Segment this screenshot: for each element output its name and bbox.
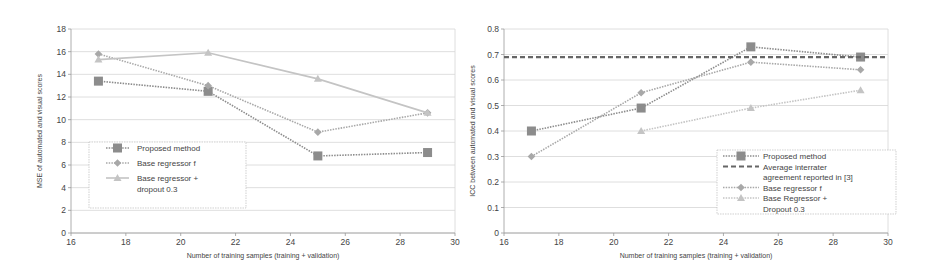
legend-label: agreement reported in [3] [763, 173, 853, 182]
series-line [98, 53, 427, 113]
x-tick-label: 28 [828, 237, 838, 247]
y-tick-label: 0.1 [487, 203, 499, 213]
y-tick-label: 4 [61, 183, 66, 193]
diamond-marker [528, 153, 536, 161]
legend-label: Base regressor f [137, 159, 196, 168]
triangle-marker [857, 86, 865, 93]
legend-label: Proposed method [763, 152, 826, 161]
y-tick-label: 0.8 [487, 24, 499, 34]
legend-label: Proposed method [137, 144, 200, 153]
y-axis-label: ICC between automated and visual scores [469, 65, 476, 197]
y-axis-label: MSE of automated and visual scores [36, 74, 43, 189]
legend: Proposed methodAverage interrateragreeme… [717, 150, 896, 214]
y-tick-label: 0.2 [487, 177, 499, 187]
y-tick-label: 12 [57, 92, 67, 102]
square-marker [313, 151, 322, 160]
square-marker [637, 104, 646, 113]
series-base-regressor-dropout-0-3 [637, 86, 864, 134]
x-tick-label: 30 [450, 237, 460, 247]
x-tick-label: 24 [719, 237, 729, 247]
x-tick-label: 26 [774, 237, 784, 247]
square-marker [737, 152, 746, 161]
legend-label: Base regressor f [763, 184, 822, 193]
x-tick-label: 30 [883, 237, 893, 247]
series-line [531, 47, 860, 131]
x-tick-label: 26 [341, 237, 351, 247]
x-axis-label: Number of training samples (training + v… [620, 252, 773, 260]
x-tick-label: 22 [231, 237, 241, 247]
y-tick-label: 0.7 [487, 50, 499, 60]
y-tick-label: 10 [57, 115, 67, 125]
series-base-regressor-f [528, 58, 865, 160]
series-base-regressor-dropout-0-3 [94, 49, 431, 116]
y-tick-label: 0.6 [487, 75, 499, 85]
icc-chart: 00.10.20.30.40.50.60.70.8161820222426283… [469, 24, 896, 260]
x-tick-label: 20 [609, 237, 619, 247]
square-marker [746, 42, 755, 51]
y-tick-label: 0.3 [487, 152, 499, 162]
diamond-marker [747, 58, 755, 66]
y-tick-label: 0.4 [487, 126, 499, 136]
y-tick-label: 0.5 [487, 101, 499, 111]
legend-label: dropout 0.3 [137, 185, 178, 194]
x-tick-label: 16 [66, 237, 76, 247]
square-marker [423, 148, 432, 157]
y-tick-label: 8 [61, 137, 66, 147]
y-tick-label: 6 [61, 160, 66, 170]
square-marker [113, 144, 122, 153]
x-tick-label: 28 [395, 237, 405, 247]
square-marker [527, 127, 536, 136]
diamond-marker [857, 66, 865, 74]
legend-label: Base Regressor + [763, 194, 828, 203]
x-tick-label: 18 [121, 237, 131, 247]
x-tick-label: 18 [554, 237, 564, 247]
charts-figure: 0246810121416181618202224262830Number of… [0, 0, 932, 276]
diamond-marker [637, 89, 645, 97]
x-tick-label: 20 [176, 237, 186, 247]
square-marker [94, 77, 103, 86]
y-tick-label: 18 [57, 24, 67, 34]
legend-label: Dropout 0.3 [763, 205, 805, 214]
x-axis-label: Number of training samples (training + v… [187, 252, 340, 260]
y-tick-label: 2 [61, 205, 66, 215]
x-tick-label: 24 [286, 237, 296, 247]
legend-label: Base regressor + [137, 174, 198, 183]
legend-label: Average interrater [763, 163, 827, 172]
diamond-marker [314, 128, 322, 136]
x-tick-label: 16 [499, 237, 509, 247]
mse-chart: 0246810121416181618202224262830Number of… [36, 24, 460, 260]
y-tick-label: 14 [57, 69, 67, 79]
legend: Proposed methodBase regressor fBase regr… [89, 142, 246, 208]
x-tick-label: 22 [664, 237, 674, 247]
y-tick-label: 16 [57, 47, 67, 57]
series-line [531, 62, 860, 156]
